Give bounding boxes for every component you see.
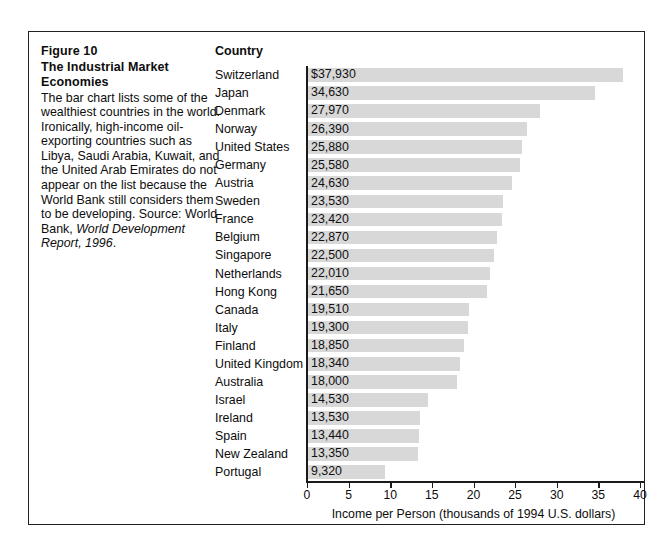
bar-track: 21,650 xyxy=(307,283,640,301)
caption-period: . xyxy=(113,236,116,250)
bar-row: Netherlands22,010 xyxy=(215,265,640,283)
x-axis-tick-label: 10 xyxy=(375,488,405,502)
bar-track: 34,630 xyxy=(307,84,640,102)
x-axis-tick xyxy=(349,483,350,488)
bar-row: Austria24,630 xyxy=(215,174,640,192)
bar-value-label: 9,320 xyxy=(311,465,342,479)
y-axis-line xyxy=(306,66,308,481)
bar-value-label: 34,630 xyxy=(311,86,349,100)
bar-row: Sweden23,530 xyxy=(215,192,640,210)
bar-row: Germany25,580 xyxy=(215,156,640,174)
bar-row-label: Israel xyxy=(215,392,301,408)
bar-row-label: Germany xyxy=(215,157,301,173)
bar-track: 13,530 xyxy=(307,409,640,427)
bar-row-label: Finland xyxy=(215,338,301,354)
bar-row: Norway26,390 xyxy=(215,120,640,138)
bar-row: United States25,880 xyxy=(215,138,640,156)
x-axis-tick-label: 40 xyxy=(625,488,655,502)
bar-track: 18,850 xyxy=(307,337,640,355)
bar-row: Australia18,000 xyxy=(215,373,640,391)
x-axis-title: Income per Person (thousands of 1994 U.S… xyxy=(332,507,616,521)
plot-area: Switzerland$37,930Japan34,630Denmark27,9… xyxy=(215,66,640,476)
bar-row-label: New Zealand xyxy=(215,446,301,462)
bar-value-label: 22,870 xyxy=(311,231,349,245)
x-axis-tick xyxy=(598,483,599,488)
bar-row: New Zealand13,350 xyxy=(215,445,640,463)
bar-value-label: $37,930 xyxy=(311,68,356,82)
bar-row-label: Italy xyxy=(215,320,301,336)
bar-track: 9,320 xyxy=(307,463,640,481)
bar-value-label: 22,500 xyxy=(311,249,349,263)
bar-value-label: 25,880 xyxy=(311,141,349,155)
bar-row: Singapore22,500 xyxy=(215,246,640,264)
bar-track: 19,300 xyxy=(307,319,640,337)
bar-row-label: Ireland xyxy=(215,410,301,426)
bar-row: Hong Kong21,650 xyxy=(215,283,640,301)
x-axis-tick xyxy=(515,483,516,488)
bar-row-label: Japan xyxy=(215,85,301,101)
bar-row-label: United Kingdom xyxy=(215,356,301,372)
bar-value-label: 25,580 xyxy=(311,159,349,173)
bar-row-label: Belgium xyxy=(215,229,301,245)
bar-row-label: Singapore xyxy=(215,247,301,263)
bar-row-label: Spain xyxy=(215,428,301,444)
bar-track: 19,510 xyxy=(307,301,640,319)
bar-row: Switzerland$37,930 xyxy=(215,66,640,84)
bar-value-label: 23,420 xyxy=(311,213,349,227)
bar-value-label: 13,350 xyxy=(311,447,349,461)
bar-track: $37,930 xyxy=(307,66,640,84)
x-axis-tick xyxy=(640,483,641,488)
bar-row-label: Switzerland xyxy=(215,67,301,83)
x-axis-tick-label: 35 xyxy=(583,488,613,502)
bar-row: Portugal9,320 xyxy=(215,463,640,481)
bar xyxy=(307,86,595,100)
bar-track: 22,010 xyxy=(307,265,640,283)
bar-row-label: United States xyxy=(215,139,301,155)
bar-value-label: 19,510 xyxy=(311,303,349,317)
bar-row: Japan34,630 xyxy=(215,84,640,102)
x-axis-tick xyxy=(307,483,308,488)
figure-title-line-1: The Industrial Market xyxy=(41,60,223,75)
x-axis-tick-label: 5 xyxy=(334,488,364,502)
bar-track: 27,970 xyxy=(307,102,640,120)
bar-track: 23,420 xyxy=(307,210,640,228)
bar-track: 24,630 xyxy=(307,174,640,192)
bar-row: Belgium22,870 xyxy=(215,228,640,246)
bar-value-label: 26,390 xyxy=(311,123,349,137)
figure-number: Figure 10 xyxy=(41,44,223,59)
x-axis-tick xyxy=(557,483,558,488)
bar-track: 22,870 xyxy=(307,228,640,246)
bar-track: 13,350 xyxy=(307,445,640,463)
x-axis-tick xyxy=(390,483,391,488)
x-axis-tick-label: 25 xyxy=(500,488,530,502)
bar-row: Italy19,300 xyxy=(215,319,640,337)
bar-value-label: 21,650 xyxy=(311,285,349,299)
bar-value-label: 24,630 xyxy=(311,177,349,191)
bar-row: France23,420 xyxy=(215,210,640,228)
bar-value-label: 23,530 xyxy=(311,195,349,209)
x-axis-tick-label: 30 xyxy=(542,488,572,502)
bar-row-label: Hong Kong xyxy=(215,284,301,300)
bar-row: Canada19,510 xyxy=(215,301,640,319)
bar-value-label: 18,340 xyxy=(311,357,349,371)
x-axis-tick-label: 15 xyxy=(417,488,447,502)
bar-row-label: Netherlands xyxy=(215,266,301,282)
bar-track: 26,390 xyxy=(307,120,640,138)
bar-rows: Switzerland$37,930Japan34,630Denmark27,9… xyxy=(215,66,640,481)
bar-track: 14,530 xyxy=(307,391,640,409)
bar-track: 22,500 xyxy=(307,246,640,264)
bar-row: Israel14,530 xyxy=(215,391,640,409)
bar-track: 13,440 xyxy=(307,427,640,445)
bar-track: 18,000 xyxy=(307,373,640,391)
bar-value-label: 18,850 xyxy=(311,339,349,353)
bar-row-label: Sweden xyxy=(215,193,301,209)
bar-track: 23,530 xyxy=(307,192,640,210)
figure-frame: Figure 10 The Industrial Market Economie… xyxy=(28,31,645,525)
bar-row: United Kingdom18,340 xyxy=(215,355,640,373)
bar-row: Finland18,850 xyxy=(215,337,640,355)
bar-value-label: 13,530 xyxy=(311,411,349,425)
bar-track: 25,880 xyxy=(307,138,640,156)
bar-row-label: Canada xyxy=(215,302,301,318)
bar-row-label: Australia xyxy=(215,374,301,390)
column-header-country: Country xyxy=(215,44,263,58)
